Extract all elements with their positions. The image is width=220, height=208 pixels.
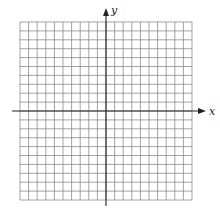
x-axis-label: x xyxy=(209,105,216,118)
y-axis-label: y xyxy=(110,4,118,17)
x-axis-arrow-icon xyxy=(198,108,206,114)
y-axis-arrow-icon xyxy=(103,8,109,16)
coordinate-plane: x y xyxy=(0,0,220,208)
